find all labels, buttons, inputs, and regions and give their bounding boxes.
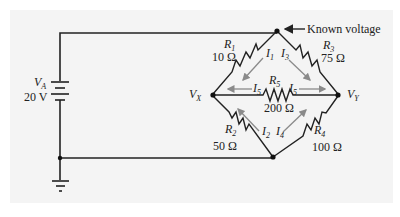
i4-label: I4	[275, 124, 284, 140]
i5-left-label: I5	[252, 81, 261, 97]
vy-label: VY	[347, 87, 360, 103]
known-voltage-label: Known voltage	[307, 22, 381, 36]
r4-value: 100 Ω	[312, 140, 342, 154]
vx-label: VX	[189, 87, 202, 103]
r2-label: R2	[224, 122, 236, 138]
resistor-r5	[213, 89, 338, 101]
battery-symbol	[51, 82, 69, 100]
node-ground	[58, 156, 62, 160]
arrow-i1	[243, 58, 263, 80]
i5-right-label: I5	[288, 81, 297, 97]
r5-value: 200 Ω	[264, 101, 294, 115]
ground-icon	[52, 181, 69, 191]
source-value: 20 V	[24, 90, 48, 104]
arrow-i3	[289, 60, 310, 80]
node-top	[274, 28, 279, 33]
r2-value: 50 Ω	[213, 139, 237, 153]
i2-label: I2	[261, 124, 270, 140]
node-vy	[335, 92, 340, 97]
i3-label: I3	[280, 46, 289, 62]
node-bottom	[270, 154, 275, 159]
r4-label: R4	[313, 123, 325, 139]
node-vx	[210, 92, 215, 97]
r1-value: 10 Ω	[212, 50, 236, 64]
r3-value: 75 Ω	[321, 51, 345, 65]
i1-label: I1	[265, 46, 274, 62]
r5-label: R5	[268, 73, 280, 89]
circuit-diagram: Known voltage VA 20 V VX VY R1 10 Ω R3 7…	[0, 0, 400, 217]
source-label: VA	[34, 75, 46, 91]
